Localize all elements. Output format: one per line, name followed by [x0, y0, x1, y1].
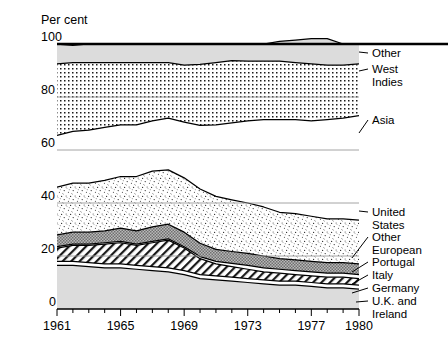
legend-label: Italy [372, 269, 393, 281]
legend-label: Other [372, 231, 401, 243]
area-band [57, 39, 359, 65]
y-tick-label: 60 [41, 136, 55, 150]
chart-legend: OtherWestIndiesAsiaUnitedStatesOtherEuro… [352, 47, 422, 320]
legend-leader-line [359, 211, 368, 212]
legend-label: United [372, 206, 405, 218]
legend-leader-line [359, 52, 368, 53]
x-tick-label: 1980 [345, 319, 373, 333]
chart-bands [57, 39, 359, 309]
legend-label: U.K. and [372, 295, 417, 307]
x-tick-label: 1965 [107, 319, 135, 333]
y-tick-label: 100 [41, 30, 62, 44]
x-axis-labels: 196119651969197319771980 [43, 319, 373, 333]
x-axis-ticks [57, 309, 359, 316]
y-tick-label: 40 [41, 189, 55, 203]
legend-leader-line [359, 120, 368, 133]
y-tick-label: 80 [41, 83, 55, 97]
legend-label: West [372, 63, 399, 75]
x-tick-label: 1961 [43, 319, 71, 333]
legend-label: States [372, 219, 405, 231]
legend-label: Indies [372, 76, 403, 88]
y-axis-title: Per cent [41, 13, 88, 27]
y-tick-label: 20 [41, 242, 55, 256]
chart-root: Per cent 020406080100 196119651969197319… [0, 0, 448, 349]
legend-label: European [372, 244, 422, 256]
legend-label: Asia [372, 114, 395, 126]
x-tick-label: 1977 [297, 319, 325, 333]
stacked-area-chart: Per cent 020406080100 196119651969197319… [0, 0, 448, 349]
y-tick-label: 0 [49, 295, 56, 309]
legend-label: Germany [372, 282, 420, 294]
legend-label: Ireland [372, 308, 407, 320]
x-tick-label: 1973 [234, 319, 262, 333]
x-tick-label: 1969 [170, 319, 198, 333]
legend-label: Other [372, 47, 401, 59]
legend-leader-line [359, 69, 368, 71]
legend-label: Portugal [372, 256, 415, 268]
